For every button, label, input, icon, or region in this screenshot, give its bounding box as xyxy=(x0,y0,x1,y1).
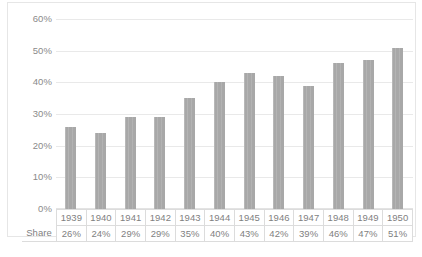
gridline-30 xyxy=(56,114,413,115)
table-row-header-share: Share xyxy=(22,226,57,242)
gridline-20 xyxy=(56,146,413,147)
data-table: 1939 1940 1941 1942 1943 1944 1945 1946 … xyxy=(22,209,413,242)
table-cell-year: 1941 xyxy=(116,210,146,226)
bar-1940 xyxy=(95,133,106,209)
table-cell-year: 1949 xyxy=(353,210,383,226)
table-cell-share: 24% xyxy=(86,226,116,242)
table-cell-share: 51% xyxy=(383,226,413,242)
bar-1950 xyxy=(392,48,403,210)
y-axis-tick-label: 10% xyxy=(4,172,52,182)
table-row-share: Share 26% 24% 29% 29% 35% 40% 43% 42% 39… xyxy=(22,226,413,242)
y-axis-tick-label: 50% xyxy=(4,46,52,56)
table-cell-share: 40% xyxy=(205,226,235,242)
table-cell-share: 42% xyxy=(264,226,294,242)
y-axis-tick-label: 60% xyxy=(4,14,52,24)
table-cell-year: 1943 xyxy=(175,210,205,226)
figure-caption xyxy=(118,247,348,255)
table-cell-year: 1940 xyxy=(86,210,116,226)
bar-1942 xyxy=(154,117,165,209)
y-axis-tick-label: 40% xyxy=(4,77,52,87)
bar-1947 xyxy=(303,86,314,210)
table-cell-share: 35% xyxy=(175,226,205,242)
table-cell-year: 1942 xyxy=(145,210,175,226)
bar-1948 xyxy=(333,63,344,209)
table-cell-year: 1945 xyxy=(234,210,264,226)
table-cell-year: 1944 xyxy=(205,210,235,226)
table-cell-share: 39% xyxy=(294,226,324,242)
bar-1949 xyxy=(363,60,374,209)
chart-page: 60% 50% 40% 30% 20% 10% 0% 1939 1940 xyxy=(0,0,422,257)
gridline-60 xyxy=(56,19,413,20)
bar-1941 xyxy=(125,117,136,209)
gridline-40 xyxy=(56,82,413,83)
bar-1945 xyxy=(244,73,255,209)
gridline-10 xyxy=(56,177,413,178)
table-cell-share: 47% xyxy=(353,226,383,242)
gridline-50 xyxy=(56,51,413,52)
y-axis-tick-label: 30% xyxy=(4,109,52,119)
bar-1943 xyxy=(184,98,195,209)
y-axis: 60% 50% 40% 30% 20% 10% 0% xyxy=(0,19,52,209)
table-cell-share: 26% xyxy=(57,226,87,242)
table-cell-year: 1950 xyxy=(383,210,413,226)
table-corner-cell xyxy=(22,210,57,226)
table-row-years: 1939 1940 1941 1942 1943 1944 1945 1946 … xyxy=(22,210,413,226)
table-cell-year: 1947 xyxy=(294,210,324,226)
table-cell-share: 29% xyxy=(145,226,175,242)
table-cell-year: 1948 xyxy=(323,210,353,226)
plot-area xyxy=(56,19,413,209)
table-cell-share: 29% xyxy=(116,226,146,242)
table-cell-year: 1946 xyxy=(264,210,294,226)
table-cell-share: 46% xyxy=(323,226,353,242)
table-cell-share: 43% xyxy=(234,226,264,242)
bar-1944 xyxy=(214,82,225,209)
table-cell-year: 1939 xyxy=(57,210,87,226)
y-axis-tick-label: 20% xyxy=(4,141,52,151)
bar-1946 xyxy=(273,76,284,209)
bar-1939 xyxy=(65,127,76,209)
